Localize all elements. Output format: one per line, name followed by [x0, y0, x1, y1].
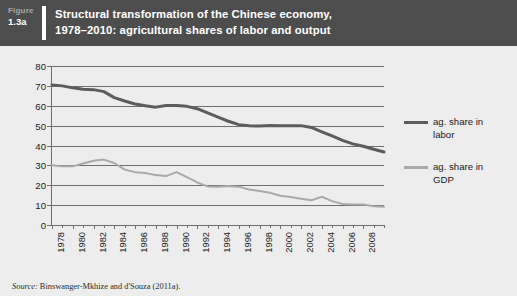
- figure-title-bar: Figure 1.3a Structural transformation of…: [0, 0, 517, 46]
- chart-panel: 01020304050607080 1978198019821984198619…: [0, 46, 517, 296]
- x-axis-tick-label: 1984: [118, 232, 128, 253]
- x-axis-tick-label: 2002: [305, 232, 315, 253]
- series-line: [52, 85, 384, 152]
- x-axis-tick-label: 1996: [243, 232, 253, 253]
- figure-title-line-1: Structural transformation of the Chinese…: [55, 7, 332, 23]
- figure-label-word: Figure: [8, 6, 42, 15]
- legend-label-line-2: labor: [433, 129, 483, 142]
- y-axis-tick-label: 40: [35, 140, 46, 151]
- y-axis-tick-label: 50: [35, 120, 46, 131]
- source-note: Source: Binswanger-Mkhize and d'Souza (2…: [0, 282, 180, 291]
- plot-area: 01020304050607080 1978198019821984198619…: [52, 66, 384, 225]
- x-axis-tick-label: 1986: [139, 232, 149, 253]
- y-axis-tick-label: 80: [35, 61, 46, 72]
- x-axis-tick-mark: [384, 225, 385, 228]
- figure-container: Figure 1.3a Structural transformation of…: [0, 0, 517, 296]
- legend-item: ag. share inlabor: [404, 116, 512, 141]
- source-prefix: Source:: [12, 282, 38, 291]
- figure-label-number: 1.3a: [8, 17, 42, 27]
- x-axis-tick-label: 1994: [222, 232, 232, 253]
- y-axis-tick-label: 0: [41, 220, 46, 231]
- legend-item-label: ag. share inlabor: [433, 116, 483, 141]
- legend-color-swatch: [404, 121, 428, 124]
- figure-title-line-2: 1978–2010: agricultural shares of labor …: [55, 23, 332, 39]
- y-axis-tick-label: 30: [35, 160, 46, 171]
- series-line: [52, 160, 384, 207]
- x-axis-tick-label: 2000: [284, 232, 294, 253]
- x-axis-tick-label: 2004: [326, 232, 336, 253]
- legend-label-line-1: ag. share in: [433, 161, 483, 174]
- legend-item-label: ag. share inGDP: [433, 161, 483, 186]
- x-axis-tick-label: 2006: [347, 232, 357, 253]
- x-axis-tick-label: 1980: [77, 232, 87, 253]
- y-axis-tick-label: 10: [35, 200, 46, 211]
- x-axis-tick-label: 1990: [181, 232, 191, 253]
- x-axis-tick-label: 1998: [264, 232, 274, 253]
- title-divider: [42, 6, 46, 40]
- y-axis-tick-label: 60: [35, 100, 46, 111]
- x-axis-tick-label: 1992: [201, 232, 211, 253]
- chart-legend: ag. share inlaborag. share inGDP: [404, 116, 512, 206]
- y-axis-tick-label: 70: [35, 80, 46, 91]
- figure-number-block: Figure 1.3a: [0, 0, 42, 46]
- x-axis-tick-label: 1982: [98, 232, 108, 253]
- legend-color-swatch: [404, 166, 428, 169]
- x-axis-tick-label: 1988: [160, 232, 170, 253]
- source-text: Binswanger-Mkhize and d'Souza (2011a).: [40, 282, 181, 291]
- x-axis-tick-label: 2008: [367, 232, 377, 253]
- series-plot: [52, 66, 384, 226]
- x-axis-tick-label: 1978: [56, 232, 66, 253]
- legend-item: ag. share inGDP: [404, 161, 512, 186]
- legend-label-line-2: GDP: [433, 174, 483, 187]
- y-axis-tick-label: 20: [35, 180, 46, 191]
- figure-title: Structural transformation of the Chinese…: [55, 0, 332, 46]
- legend-label-line-1: ag. share in: [433, 116, 483, 129]
